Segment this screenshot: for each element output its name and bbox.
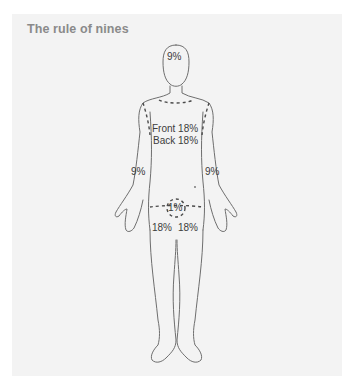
torso-front-label: Front 18%: [152, 124, 198, 134]
right-arm-boundary-dashes: [202, 103, 209, 135]
navel-dot: [194, 186, 196, 188]
head-percent-label: 9%: [167, 52, 181, 62]
right-leg-percent-label: 18%: [152, 223, 172, 233]
right-shoulder-arm-outline: [182, 86, 237, 231]
right-leg-outline: [177, 230, 203, 362]
left-arm-boundary-dashes: [143, 103, 150, 135]
genitals-percent-label: 1%: [168, 203, 182, 213]
left-leg-outline: [150, 230, 176, 362]
torso-back-label: Back 18%: [153, 136, 198, 146]
left-arm-percent-label: 9%: [205, 167, 219, 177]
right-arm-percent-label: 9%: [131, 167, 145, 177]
left-shoulder-arm-outline: [115, 86, 170, 231]
neck-boundary-dashes: [159, 100, 193, 103]
left-leg-percent-label: 18%: [178, 223, 198, 233]
